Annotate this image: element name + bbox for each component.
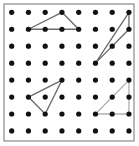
triangle-top-left xyxy=(28,12,78,29)
peg-dot xyxy=(59,78,64,83)
peg-dot xyxy=(126,44,131,49)
peg-dot xyxy=(9,44,14,49)
peg-dot xyxy=(26,27,31,32)
peg-dot xyxy=(26,111,31,116)
peg-dot xyxy=(93,94,98,99)
geoboard-diagram xyxy=(0,0,139,146)
peg-dot xyxy=(76,111,81,116)
peg-dot xyxy=(76,61,81,66)
peg-dot xyxy=(126,27,131,32)
peg-dot xyxy=(110,111,115,116)
board-border xyxy=(4,4,134,141)
peg-dot xyxy=(76,78,81,83)
peg-dot xyxy=(126,94,131,99)
peg-dot xyxy=(59,128,64,133)
peg-dot xyxy=(43,128,48,133)
peg-dot xyxy=(26,10,31,15)
peg-dot xyxy=(93,128,98,133)
peg-dot xyxy=(93,44,98,49)
peg-dot xyxy=(9,128,14,133)
peg-dot xyxy=(9,94,14,99)
peg-dot xyxy=(26,78,31,83)
peg-dot xyxy=(93,61,98,66)
peg-dot xyxy=(43,44,48,49)
peg-dot xyxy=(76,10,81,15)
peg-dot xyxy=(59,44,64,49)
peg-dot xyxy=(59,27,64,32)
peg-dot xyxy=(110,78,115,83)
peg-dot xyxy=(93,78,98,83)
peg-dot xyxy=(126,128,131,133)
peg-dot xyxy=(93,27,98,32)
peg-dot xyxy=(26,61,31,66)
peg-dot xyxy=(76,128,81,133)
peg-dot xyxy=(110,61,115,66)
peg-dot xyxy=(126,78,131,83)
peg-dot xyxy=(59,10,64,15)
peg-dot xyxy=(59,61,64,66)
peg-dot xyxy=(126,111,131,116)
peg-dot xyxy=(43,111,48,116)
peg-dot xyxy=(110,27,115,32)
peg-dot xyxy=(76,94,81,99)
peg-dot xyxy=(26,44,31,49)
peg-dot xyxy=(9,111,14,116)
peg-dot xyxy=(59,94,64,99)
peg-dot xyxy=(43,27,48,32)
peg-dot xyxy=(43,10,48,15)
peg-dot xyxy=(9,61,14,66)
peg-dot xyxy=(9,10,14,15)
peg-dot xyxy=(110,44,115,49)
peg-dot xyxy=(126,61,131,66)
peg-dot xyxy=(76,44,81,49)
peg-dot xyxy=(110,94,115,99)
peg-dot xyxy=(110,128,115,133)
peg-dot xyxy=(43,94,48,99)
peg-dot xyxy=(43,61,48,66)
peg-dot xyxy=(9,78,14,83)
peg-dot xyxy=(76,27,81,32)
dot-grid xyxy=(9,10,131,134)
peg-dot xyxy=(59,111,64,116)
peg-dot xyxy=(126,10,131,15)
peg-dot xyxy=(26,128,31,133)
peg-dot xyxy=(9,27,14,32)
peg-dot xyxy=(93,10,98,15)
peg-dot xyxy=(43,78,48,83)
peg-dot xyxy=(110,10,115,15)
peg-dot xyxy=(26,94,31,99)
triangle-top-right xyxy=(95,12,129,63)
peg-dot xyxy=(93,111,98,116)
